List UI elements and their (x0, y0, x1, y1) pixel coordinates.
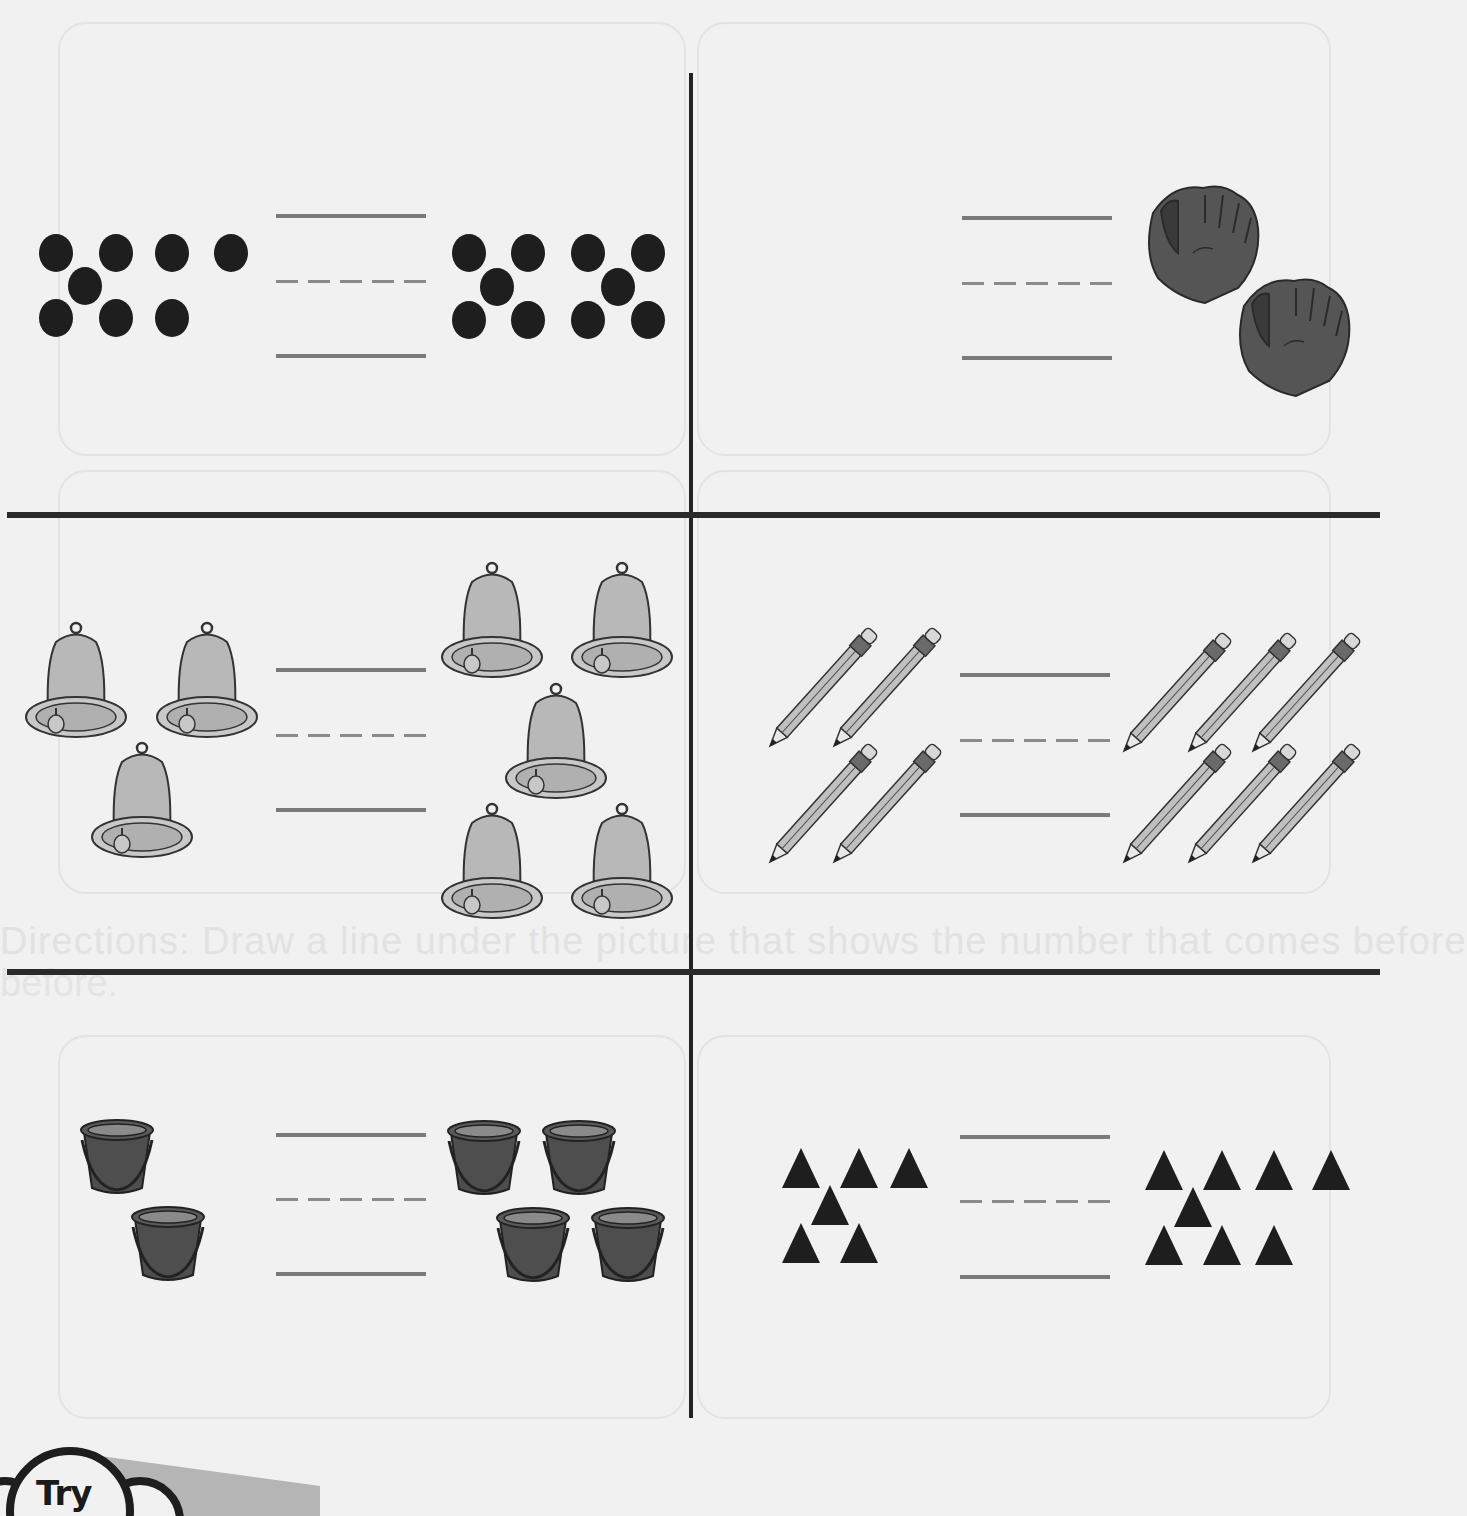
triangle-icon-group-right (0, 0, 1, 1)
guide-top-line (960, 673, 1110, 677)
guide-top-line (962, 216, 1112, 220)
bucket-icon (542, 1119, 543, 1120)
pencil-icon (1189, 862, 1190, 863)
guide-mid-dashed-line (276, 1198, 426, 1201)
bell-icon (572, 562, 573, 563)
guide-top-line (276, 214, 426, 218)
guide-top-line (276, 1133, 426, 1137)
guide-top-line (276, 668, 426, 672)
pencil-icon (1253, 751, 1254, 752)
bell-icon (157, 622, 158, 623)
guide-base-line (276, 808, 426, 812)
bell-icon (442, 803, 443, 804)
pencil-icon (834, 862, 835, 863)
pencil-icon (770, 746, 771, 747)
guide-base-line (960, 813, 1110, 817)
bell-icon (92, 742, 93, 743)
bucket-icon (496, 1206, 497, 1207)
bucket-icon (447, 1119, 448, 1120)
writing-guide[interactable] (960, 673, 1110, 819)
writing-guide[interactable] (276, 1133, 426, 1279)
pencil-icon (1124, 862, 1125, 863)
vertical-divider (689, 73, 693, 1418)
guide-mid-dashed-line (960, 1200, 1110, 1203)
glove-icon (1234, 276, 1235, 277)
guide-mid-dashed-line (960, 739, 1110, 742)
pencil-icon (1253, 862, 1254, 863)
writing-guide[interactable] (960, 1135, 1110, 1281)
horizontal-divider-1 (7, 512, 1380, 518)
guide-base-line (276, 1272, 426, 1276)
guide-mid-dashed-line (276, 734, 426, 737)
try-label: Try (36, 1473, 91, 1513)
horizontal-divider-2 (7, 969, 1380, 975)
guide-base-line (962, 356, 1112, 360)
pencil-icon (1124, 751, 1125, 752)
writing-guide[interactable] (962, 216, 1112, 362)
bucket-icon (80, 1118, 81, 1119)
pencil-icon (770, 862, 771, 863)
bucket-icon (131, 1205, 132, 1206)
guide-mid-dashed-line (962, 282, 1112, 285)
bell-icon (442, 562, 443, 563)
pencil-icon (1189, 751, 1190, 752)
guide-mid-dashed-line (276, 280, 426, 283)
writing-guide[interactable] (276, 668, 426, 814)
guide-base-line (960, 1275, 1110, 1279)
glove-icon (1143, 183, 1144, 184)
guide-top-line (960, 1135, 1110, 1139)
bell-icon (572, 803, 573, 804)
bell-icon (506, 683, 507, 684)
guide-base-line (276, 354, 426, 358)
bell-icon (26, 622, 27, 623)
pencil-icon (834, 746, 835, 747)
writing-guide[interactable] (276, 214, 426, 360)
bucket-icon (591, 1206, 592, 1207)
